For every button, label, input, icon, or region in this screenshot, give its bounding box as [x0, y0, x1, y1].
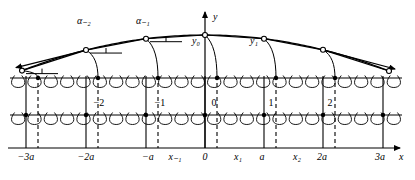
- x-tick-label-x1: x₁: [234, 152, 242, 162]
- cell-index-label-1: −1: [155, 98, 166, 108]
- angle-label-0: α₋₂: [77, 16, 91, 26]
- x-tick-label-ma: −a: [142, 152, 154, 162]
- figure-root: −3a−2a−ax₋₁0x₁ax₂2a3ax−2−1012α₋₂α₋₁y₀y₁y: [0, 0, 415, 180]
- figure-canvas: [0, 0, 415, 180]
- x-tick-label-a: a: [260, 152, 265, 162]
- cell-index-label-0: −2: [94, 98, 105, 108]
- displacement-label-0: y₀: [192, 36, 200, 46]
- spring-coil-row-upper: [10, 76, 402, 88]
- x-tick-label-3a: 3a: [375, 152, 385, 162]
- x-tick-label-m2a: −2a: [78, 152, 95, 162]
- cell-index-label-4: 2: [328, 98, 333, 108]
- x-tick-label-xax: x: [399, 152, 403, 162]
- lattice-dashed-gridlines: [38, 76, 335, 148]
- x-tick-label-2a: 2a: [317, 152, 327, 162]
- angle-label-1: α₋₁: [136, 16, 150, 26]
- x-tick-label-x2: x₂: [293, 152, 301, 162]
- displacement-label-1: y₁: [250, 36, 258, 46]
- angle-marker-group: [26, 37, 182, 74]
- x-tick-label-m3a: −3a: [18, 152, 35, 162]
- x-tick-label-zero: 0: [203, 152, 208, 162]
- y-axis-label: y: [213, 12, 217, 22]
- cell-index-label-3: 1: [269, 98, 274, 108]
- x-tick-label-xm1: x₋₁: [169, 152, 182, 162]
- cell-index-label-2: 0: [212, 98, 217, 108]
